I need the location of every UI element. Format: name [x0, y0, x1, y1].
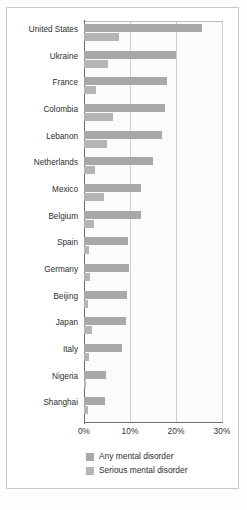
figure: United StatesUkraineFranceColombiaLebano… — [0, 0, 247, 510]
bar-serious — [84, 140, 107, 148]
category-label: Spain — [2, 238, 78, 248]
bar-serious — [84, 353, 89, 361]
bar-any — [84, 397, 105, 405]
category-label: Japan — [2, 318, 78, 328]
bar-serious — [84, 380, 86, 388]
bar-any — [84, 317, 126, 325]
bar-row: Italy — [0, 342, 247, 369]
bar-any — [84, 24, 202, 32]
x-tick-label: 30% — [202, 426, 242, 437]
bar-serious — [84, 246, 89, 254]
x-axis-line — [84, 422, 223, 423]
bar-row: Beijing — [0, 289, 247, 316]
bar-serious — [84, 406, 88, 414]
legend-item: Serious mental disorder — [0, 464, 247, 478]
category-label: Shanghai — [2, 398, 78, 408]
bar-any — [84, 157, 153, 165]
bar-serious — [84, 220, 94, 228]
bar-row: Belgium — [0, 209, 247, 236]
bar-any — [84, 51, 176, 59]
bar-any — [84, 184, 141, 192]
category-label: Italy — [2, 345, 78, 355]
bar-any — [84, 104, 165, 112]
bar-row: France — [0, 75, 247, 102]
category-label: United States — [2, 25, 78, 35]
bar-serious — [84, 326, 92, 334]
bar-row: Japan — [0, 315, 247, 342]
bar-any — [84, 291, 127, 299]
legend-label: Any mental disorder — [99, 451, 173, 462]
category-label: France — [2, 78, 78, 88]
legend-swatch — [86, 453, 94, 461]
category-label: Germany — [2, 265, 78, 275]
bar-any — [84, 344, 122, 352]
bar-any — [84, 131, 162, 139]
category-label: Colombia — [2, 105, 78, 115]
bar-any — [84, 77, 167, 85]
bar-row: Germany — [0, 262, 247, 289]
bar-any — [84, 264, 129, 272]
bar-row: Colombia — [0, 102, 247, 129]
bar-row: Spain — [0, 235, 247, 262]
bar-row: Netherlands — [0, 155, 247, 182]
x-tick-label: 0% — [64, 426, 104, 437]
x-tick-label: 20% — [156, 426, 196, 437]
bar-serious — [84, 193, 104, 201]
bar-row: United States — [0, 22, 247, 49]
bar-any — [84, 237, 128, 245]
legend-label: Serious mental disorder — [99, 465, 187, 476]
bar-serious — [84, 60, 108, 68]
bar-any — [84, 371, 106, 379]
x-tick-label: 10% — [110, 426, 150, 437]
bar-row: Nigeria — [0, 369, 247, 396]
legend-swatch — [86, 467, 94, 475]
category-label: Belgium — [2, 212, 78, 222]
bar-serious — [84, 113, 113, 121]
legend: Any mental disorderSerious mental disord… — [0, 450, 247, 478]
category-label: Nigeria — [2, 372, 78, 382]
bar-serious — [84, 33, 119, 41]
bar-serious — [84, 166, 95, 174]
category-label: Mexico — [2, 185, 78, 195]
bar-any — [84, 211, 141, 219]
bar-serious — [84, 300, 88, 308]
bar-row: Shanghai — [0, 395, 247, 422]
bar-row: Ukraine — [0, 49, 247, 76]
category-label: Beijing — [2, 292, 78, 302]
bar-row: Mexico — [0, 182, 247, 209]
legend-item: Any mental disorder — [0, 450, 247, 464]
bar-row: Lebanon — [0, 129, 247, 156]
bar-serious — [84, 273, 90, 281]
category-label: Netherlands — [2, 158, 78, 168]
category-label: Lebanon — [2, 132, 78, 142]
bar-serious — [84, 86, 96, 94]
category-label: Ukraine — [2, 52, 78, 62]
